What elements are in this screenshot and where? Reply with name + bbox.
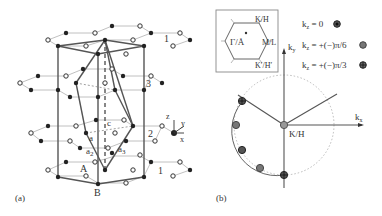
- crystal-structure-panel: 1 3 2 1 c a a2 a3 A B z y x (a): [15, 24, 192, 203]
- axis-y-label: y: [181, 119, 185, 128]
- k-h-label: K/H: [255, 15, 269, 24]
- vector-a1-label: a: [89, 133, 93, 143]
- marker-gray-1: [232, 121, 239, 128]
- brillouin-zone-panel: Γ/Å K/H M/L K′/H′ kz = 0 kz = +(−)π/6 kz…: [216, 10, 366, 203]
- vector-a3-label: a3: [118, 144, 126, 156]
- legend-kz-0: kz = 0: [302, 19, 324, 30]
- ky-axis-label: ky: [288, 42, 296, 53]
- kx-arrow-icon: [358, 123, 364, 127]
- layer-label-bottom-1: 1: [158, 165, 163, 176]
- kprime-hprime-label: K′/H′: [255, 61, 273, 70]
- panel-a-label: (a): [15, 193, 25, 203]
- legend-kz-pi6: kz = +(−)π/6: [302, 40, 347, 51]
- marker-gray-2: [256, 164, 263, 171]
- panel-b-label: (b): [216, 193, 227, 203]
- kx-axis-label: kx: [355, 112, 363, 123]
- axis-z-label: z: [166, 112, 170, 121]
- site-b-label: B: [94, 187, 101, 198]
- legend-kz-pi3: kz = +(−)π/3: [302, 60, 347, 71]
- site-a-label: A: [80, 163, 88, 174]
- figure-canvas: 1 3 2 1 c a a2 a3 A B z y x (a) Γ/Å K/H …: [0, 0, 382, 216]
- center-kh-point: [280, 121, 287, 128]
- layer-label-2: 2: [148, 128, 153, 139]
- dark-dot-center-icon: [336, 23, 339, 26]
- vector-c-label: c: [107, 118, 111, 128]
- marker-dark-1: [238, 146, 245, 153]
- kz-legend: kz = 0 kz = +(−)π/6 kz = +(−)π/3: [302, 19, 366, 71]
- axis-x-label: x: [180, 135, 184, 144]
- center-kh-label: K/H: [289, 129, 305, 139]
- m-l-label: M/L: [262, 38, 276, 47]
- ky-arrow-icon: [282, 48, 286, 54]
- layer-label-3: 3: [146, 78, 151, 89]
- layer-label-top-1: 1: [164, 33, 169, 44]
- gamma-point-icon: [245, 32, 247, 34]
- gamma-label: Γ/Å: [230, 37, 245, 47]
- gray-dot-icon: [360, 42, 367, 49]
